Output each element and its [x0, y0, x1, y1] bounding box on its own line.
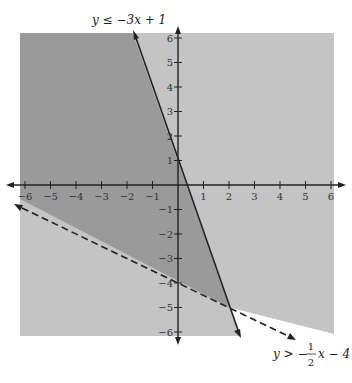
svg-text:x − 4: x − 4 [318, 347, 350, 361]
svg-text:4: 4 [277, 191, 283, 202]
inequality-graph: −6 −5 −4 −3 −2 −1 1 2 3 4 5 6 1 2 3 4 5 … [0, 0, 352, 383]
svg-text:1: 1 [308, 341, 314, 352]
svg-text:−5: −5 [43, 191, 58, 202]
svg-text:6: 6 [328, 191, 334, 202]
svg-text:3: 3 [167, 106, 173, 117]
svg-text:−4: −4 [69, 191, 84, 202]
svg-text:2: 2 [226, 191, 232, 202]
svg-text:1: 1 [167, 155, 173, 166]
svg-text:2: 2 [308, 357, 314, 368]
svg-text:−5: −5 [158, 302, 173, 313]
svg-text:1: 1 [200, 191, 206, 202]
svg-text:−1: −1 [158, 204, 173, 215]
svg-text:−3: −3 [158, 253, 173, 264]
svg-text:5: 5 [302, 191, 308, 202]
svg-text:3: 3 [251, 191, 257, 202]
line1-label: y ≤ −3x + 1 [91, 13, 166, 27]
svg-text:−2: −2 [158, 229, 173, 240]
svg-text:5: 5 [167, 57, 173, 68]
svg-text:−1: −1 [145, 191, 160, 202]
svg-text:−4: −4 [158, 278, 173, 289]
svg-text:6: 6 [167, 33, 173, 44]
line2-label: y > − 1 2 x − 4 [272, 341, 350, 368]
svg-text:−2: −2 [120, 191, 135, 202]
svg-text:−3: −3 [94, 191, 109, 202]
svg-text:y > −: y > − [272, 347, 308, 361]
svg-text:−6: −6 [18, 191, 33, 202]
svg-text:−6: −6 [158, 327, 173, 338]
svg-text:4: 4 [167, 82, 173, 93]
